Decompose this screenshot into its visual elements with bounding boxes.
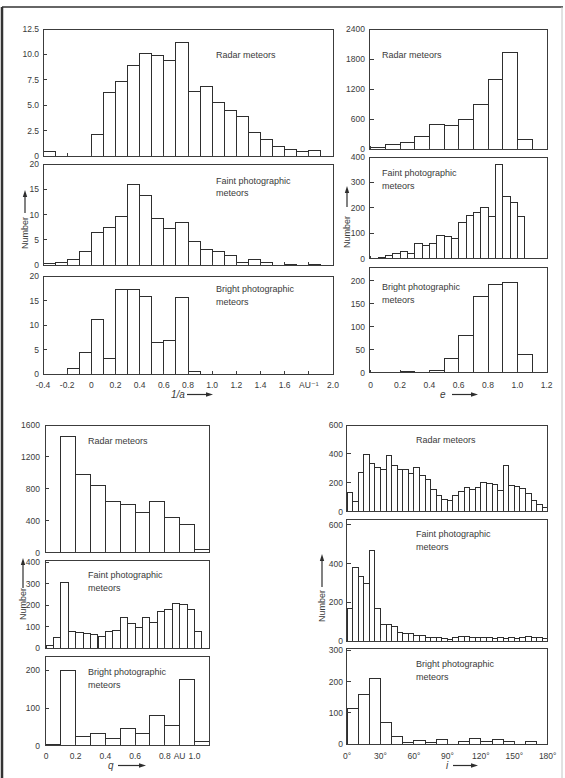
histogram-bar [400, 143, 415, 150]
x-tick-label: 1.0 [206, 380, 218, 390]
histogram-bar [176, 42, 188, 156]
histogram-bar [495, 165, 502, 259]
histogram-bar [392, 627, 398, 641]
histogram-bar [431, 489, 437, 511]
histogram-bar [492, 740, 503, 744]
x-tick-label: 0.8 [159, 751, 171, 761]
panel-label: Bright photographic [88, 667, 167, 677]
histogram-bar [236, 116, 248, 156]
histogram-bar [415, 137, 430, 150]
y-tick-label: 600 [329, 420, 343, 430]
panel-bright: 05101520Bright photographicmeteors [30, 271, 333, 379]
histogram-bar [444, 126, 459, 149]
histogram-bar [195, 742, 210, 746]
y-tick-label: 300 [329, 645, 343, 655]
x-tick-label: 1.6 [279, 380, 291, 390]
histogram-bar [422, 246, 429, 259]
histogram-bar [165, 610, 172, 649]
x-tick-label: 0.6 [158, 380, 170, 390]
histogram-bar [140, 53, 152, 156]
histogram-bar [369, 551, 375, 641]
histogram-bar [425, 479, 431, 511]
histogram-bar [400, 251, 407, 259]
y-tick-label: 600 [329, 520, 343, 530]
histogram-bar [375, 467, 381, 512]
histogram-bar [459, 222, 466, 259]
histogram-bar [68, 632, 75, 649]
histogram-bar [481, 208, 488, 259]
panel-radar: 0200400600Radar meteors [329, 420, 548, 517]
panel-label: Radar meteors [216, 50, 276, 60]
histogram-bar [397, 469, 403, 512]
x-axis-label: e [440, 389, 446, 400]
panel-radar: 040080012001600Radar meteors [21, 420, 209, 558]
histogram-bar [403, 469, 409, 512]
histogram-bar [347, 609, 353, 641]
histogram-bar [509, 485, 515, 511]
histogram-e: 0600120018002400Radar meteors01002003004… [342, 24, 553, 400]
histogram-bar [150, 715, 165, 746]
x-tick-label: 0.6 [453, 380, 465, 390]
histogram-bar [517, 139, 532, 149]
panel-label: meteors [216, 188, 249, 198]
y-tick-label: 200 [351, 276, 365, 286]
arrow-up-icon [23, 190, 27, 197]
histogram-bar [542, 508, 548, 512]
histogram-bar [481, 637, 487, 641]
histogram-bar [152, 55, 164, 156]
histogram-bar [180, 680, 195, 746]
histogram-bar [128, 624, 135, 649]
y-tick-label: 400 [351, 152, 365, 162]
histogram-bar [273, 147, 285, 156]
panel-bright: 0100200Bright photographicmeteors [26, 657, 210, 751]
histogram-bar [176, 223, 188, 265]
histogram-bar [200, 249, 212, 265]
x-tick-label: -0.4 [36, 380, 51, 390]
y-tick-label: 0 [35, 741, 40, 751]
x-axis-label: q [108, 760, 114, 771]
histogram-bar [486, 483, 492, 511]
y-tick-label: 600 [351, 114, 365, 124]
histogram-bar [459, 120, 474, 149]
panel-label: Bright photographic [416, 659, 495, 669]
histogram-bar [61, 582, 68, 648]
y-tick-label: 100 [26, 703, 40, 713]
y-tick-label: 5 [34, 235, 39, 245]
histogram-bar [464, 636, 470, 641]
histogram-bar [470, 738, 481, 744]
histogram-bar [436, 495, 442, 512]
histogram-bar [150, 501, 165, 552]
histogram-bar [224, 256, 236, 265]
histogram-bar [297, 152, 309, 156]
y-tick-label: 0 [360, 368, 365, 378]
histogram-bar [91, 135, 103, 156]
histogram-bar [128, 66, 140, 156]
histogram-bar [473, 296, 488, 373]
histogram-bar [475, 487, 481, 511]
histogram-bar [105, 501, 120, 552]
histogram-bar [224, 110, 236, 156]
histogram-bar [488, 217, 495, 259]
histogram-bar [135, 733, 150, 745]
histogram-bar [285, 150, 297, 156]
y-tick-label: 200 [329, 478, 343, 488]
x-tick-label: AU [174, 751, 186, 761]
histogram-bar [464, 487, 470, 511]
histogram-bar [347, 708, 358, 744]
histogram-bar [200, 87, 212, 156]
histogram-bar [165, 517, 180, 552]
histogram-bar [103, 227, 115, 265]
histogram-bar [152, 342, 164, 374]
histogram-bar [353, 501, 359, 512]
y-tick-label: 0 [338, 739, 343, 749]
y-tick-label: 1600 [21, 420, 40, 430]
arrow-up-icon [345, 186, 349, 193]
histogram-bar [358, 577, 364, 641]
histogram-bar [444, 236, 451, 258]
panel-label: meteors [216, 297, 249, 307]
y-tick-label: 100 [351, 322, 365, 332]
histogram-bar [135, 512, 150, 552]
arrow-right-icon [471, 392, 478, 396]
y-tick-label: 100 [351, 228, 365, 238]
panel-label: meteors [88, 583, 121, 593]
